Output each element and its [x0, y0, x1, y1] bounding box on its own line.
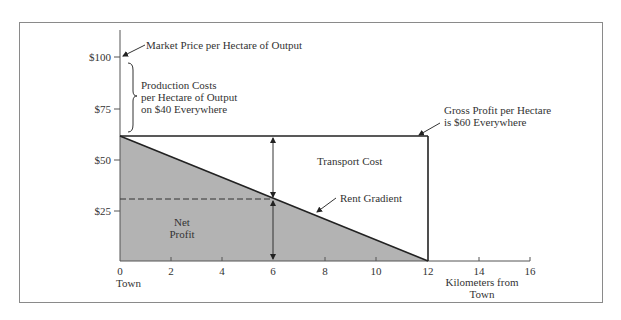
x-label-16: 16	[525, 265, 537, 277]
market-price-arrow	[123, 45, 145, 56]
x-label-0: 0	[117, 265, 123, 277]
y-label-25: $25	[95, 205, 112, 217]
production-cost-brace	[128, 63, 137, 132]
x-label-4: 4	[219, 265, 225, 277]
gross-profit-line2: is $60 Everywhere	[444, 116, 527, 128]
gross-profit-line1: Gross Profit per Hectare	[444, 104, 551, 116]
x-axis-title-line1: Kilometers from	[445, 276, 518, 288]
y-ticks	[114, 57, 120, 211]
von-thunen-chart: $100 $75 $50 $25 0 2 4 6 8 10 12 14 16 T…	[0, 0, 621, 320]
production-cost-line3: on $40 Everywhere	[141, 103, 227, 115]
rent-gradient-label: Rent Gradient	[340, 192, 402, 204]
x-axis-title-line2: Town	[470, 288, 495, 300]
production-cost-line2: per Hectare of Output	[141, 91, 237, 103]
x-label-2: 2	[168, 265, 174, 277]
y-label-75: $75	[95, 103, 112, 115]
production-cost-line1: Production Costs	[141, 79, 216, 91]
market-price-label: Market Price per Hectare of Output	[146, 39, 302, 51]
x-label-12: 12	[423, 265, 434, 277]
net-profit-label-line1: Net	[174, 216, 190, 228]
rent-gradient-arrow	[317, 198, 336, 212]
y-label-100: $100	[89, 51, 112, 63]
x-label-8: 8	[322, 265, 328, 277]
transport-cost-label: Transport Cost	[317, 155, 382, 167]
net-profit-label-line2: Profit	[169, 228, 194, 240]
x-label-10: 10	[371, 265, 383, 277]
town-label: Town	[116, 277, 141, 289]
x-label-6: 6	[270, 265, 276, 277]
y-label-50: $50	[95, 154, 112, 166]
gross-profit-arrow	[419, 123, 440, 135]
